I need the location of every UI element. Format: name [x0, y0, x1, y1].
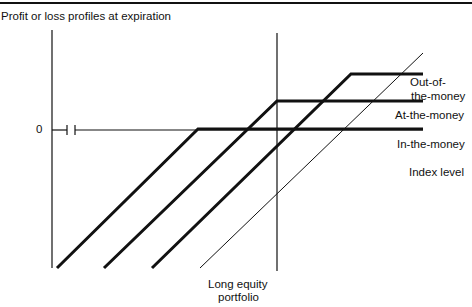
long-equity-label-1: Long equity — [208, 278, 267, 291]
at-the-money-line — [104, 101, 423, 268]
in-the-money-line — [57, 129, 423, 268]
diagram-canvas — [0, 0, 472, 307]
figure-title: Profit or loss profiles at expiration — [1, 10, 171, 22]
out-of-the-money-line — [152, 74, 423, 268]
zero-label: 0 — [36, 123, 42, 136]
at-the-money-label: At-the-money — [395, 109, 464, 122]
out-of-the-money-label-2: the-money — [411, 90, 465, 103]
out-of-the-money-label-1: Out-of- — [410, 76, 446, 89]
in-the-money-label: In-the-money — [397, 138, 465, 151]
long-equity-label-2: portfolio — [218, 291, 259, 304]
index-level-label: Index level — [409, 166, 464, 179]
long-equity-line — [200, 53, 423, 268]
